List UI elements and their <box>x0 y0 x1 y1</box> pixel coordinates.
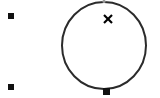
handle-bottom-left[interactable] <box>8 84 14 90</box>
handle-top-left[interactable] <box>8 13 14 19</box>
anchor-point-top-icon[interactable] <box>102 0 105 3</box>
drawing-canvas[interactable]: White canvas with a circle outline, thre… <box>0 0 160 98</box>
handle-circle-bottom[interactable] <box>103 88 110 95</box>
canvas-surface[interactable] <box>0 0 160 98</box>
canvas-background <box>0 0 160 98</box>
